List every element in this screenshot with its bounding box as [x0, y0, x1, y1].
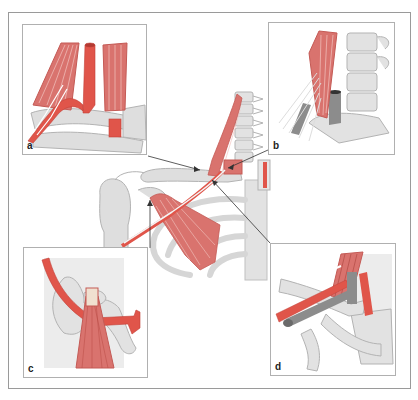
panel-a: a: [22, 24, 147, 155]
panel-b: b: [268, 22, 395, 155]
panel-c: c: [23, 247, 148, 378]
carotid: [263, 162, 267, 188]
sternum: [245, 180, 267, 280]
scalene-muscles-a: [33, 43, 127, 111]
panel-label-c: c: [28, 363, 34, 374]
panel-label-d: d: [275, 361, 281, 372]
panel-label-b: b: [273, 140, 279, 151]
panel-d: d: [270, 243, 396, 376]
panel-label-a: a: [27, 140, 33, 151]
